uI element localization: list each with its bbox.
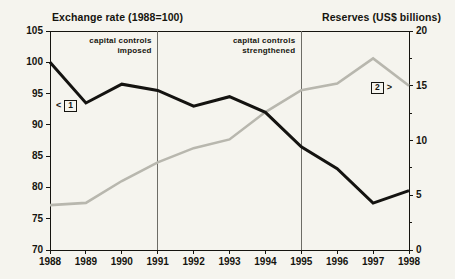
tick-label: 70 — [15, 244, 43, 255]
tick-label: 1990 — [102, 256, 142, 267]
annotation-line-1: capital controls — [200, 36, 296, 46]
tick-label: 90 — [15, 119, 43, 130]
tick-label: 105 — [15, 25, 43, 36]
series-marker-1: < 1 — [56, 100, 77, 112]
tick-label: 1997 — [353, 256, 393, 267]
tick-label: 0 — [416, 244, 444, 255]
right-arrow-icon: > — [387, 83, 392, 92]
tick-label: 20 — [416, 25, 444, 36]
left-arrow-icon: < — [56, 101, 61, 110]
tick-label: 1993 — [210, 256, 250, 267]
chart-figure: Exchange rate (1988=100) Reserves (US$ b… — [0, 0, 455, 279]
tick-label: 10 — [416, 135, 444, 146]
tick-label: 95 — [15, 88, 43, 99]
tick-label: 80 — [15, 181, 43, 192]
tick-label: 100 — [15, 56, 43, 67]
tick-label: 1991 — [138, 256, 178, 267]
annotation-line-2: imposed — [84, 46, 152, 56]
tick-label: 1992 — [174, 256, 214, 267]
annotation-capital-controls-imposed: capital controls imposed — [84, 36, 152, 56]
annotation-capital-controls-strengthened: capital controls strengthened — [200, 36, 296, 56]
annotation-line-1: capital controls — [84, 36, 152, 46]
tick-label: 1994 — [245, 256, 285, 267]
series-marker-1-label: 1 — [64, 100, 77, 112]
tick-label: 15 — [416, 80, 444, 91]
series-marker-2-label: 2 — [371, 82, 384, 94]
annotation-line-2: strengthened — [200, 46, 296, 56]
tick-label: 1988 — [30, 256, 70, 267]
tick-label: 1998 — [389, 256, 429, 267]
tick-label: 1996 — [317, 256, 357, 267]
tick-label: 1995 — [281, 256, 321, 267]
tick-label: 5 — [416, 189, 444, 200]
tick-label: 1989 — [66, 256, 106, 267]
tick-label: 85 — [15, 150, 43, 161]
tick-label: 75 — [15, 213, 43, 224]
series-marker-2: 2 > — [371, 82, 392, 94]
